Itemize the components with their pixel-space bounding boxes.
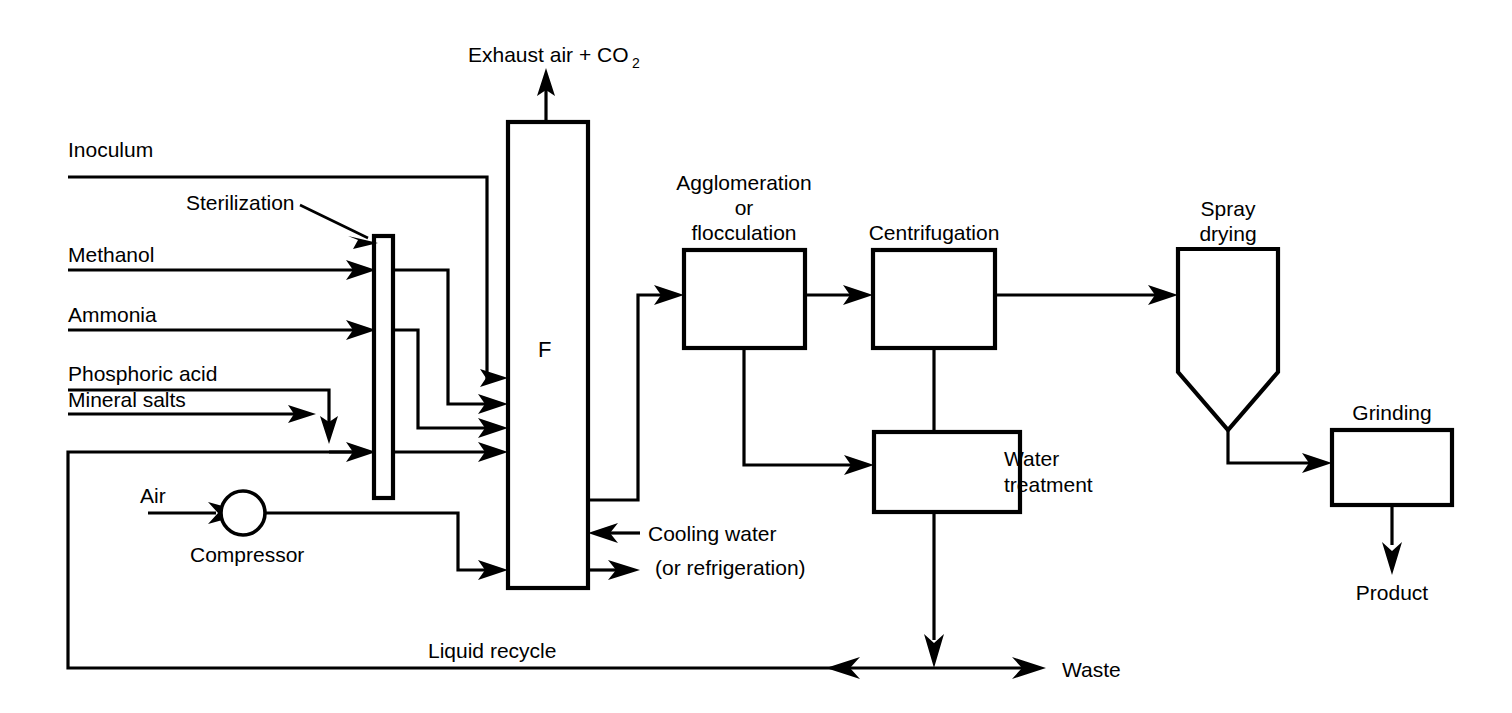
label-fermenter: F — [538, 337, 551, 362]
stream-cooling-water-in — [588, 523, 640, 543]
label-water-treatment-line2: treatment — [1004, 473, 1093, 496]
label-mineral-salts: Mineral salts — [68, 388, 186, 411]
label-ammonia: Ammonia — [68, 303, 157, 326]
process-flow-diagram: Exhaust air + CO 2 Inoculum Sterilizatio… — [0, 0, 1512, 713]
label-cooling-water-line1: Cooling water — [648, 522, 776, 545]
stream-exhaust — [537, 68, 555, 122]
sterilizer-vessel — [374, 236, 393, 498]
water-treatment-box — [874, 432, 1020, 512]
flow-diagram-svg: Exhaust air + CO 2 Inoculum Sterilizatio… — [0, 0, 1512, 713]
stream-agglom-to-water — [744, 348, 874, 475]
stream-waste — [934, 657, 1046, 679]
agglomeration-box — [684, 250, 805, 348]
label-agglomeration-line3: flocculation — [691, 221, 796, 244]
label-sterilization: Sterilization — [186, 191, 295, 214]
stream-cooling-water-out — [588, 560, 640, 580]
label-waste: Waste — [1062, 658, 1121, 681]
label-exhaust: Exhaust air + CO — [468, 43, 628, 66]
centrifugation-box — [873, 250, 995, 348]
label-methanol: Methanol — [68, 243, 154, 266]
stream-broth — [588, 285, 684, 500]
label-water-treatment-line1: Water — [1004, 447, 1059, 470]
arrowhead-inoculum — [480, 369, 508, 387]
sterilization-pointer — [300, 205, 378, 249]
stream-dryer-to-grinding — [1228, 430, 1332, 473]
label-exhaust-subscript: 2 — [632, 55, 640, 71]
label-spray-drying-line2: drying — [1199, 222, 1256, 245]
spray-dryer-vessel — [1178, 249, 1278, 430]
label-cooling-water-line2: (or refrigeration) — [655, 556, 806, 579]
stream-product — [1382, 505, 1402, 575]
label-grinding: Grinding — [1352, 401, 1431, 424]
label-air: Air — [140, 484, 166, 507]
compressor-symbol — [221, 491, 265, 535]
grinding-box — [1332, 430, 1452, 505]
label-agglomeration-line2: or — [735, 196, 754, 219]
stream-centrifuge-to-dryer — [995, 285, 1178, 305]
stream-air — [148, 491, 508, 580]
label-spray-drying-line1: Spray — [1201, 197, 1256, 220]
label-compressor: Compressor — [190, 543, 304, 566]
arrowhead-product — [1382, 542, 1402, 575]
label-phosphoric-acid: Phosphoric acid — [68, 362, 217, 385]
stream-agglom-to-centrifuge — [805, 285, 873, 305]
stream-water-to-waste — [924, 512, 944, 668]
label-centrifugation: Centrifugation — [869, 221, 1000, 244]
label-product: Product — [1356, 581, 1429, 604]
label-agglomeration-line1: Agglomeration — [676, 171, 811, 194]
label-inoculum: Inoculum — [68, 138, 153, 161]
label-liquid-recycle: Liquid recycle — [428, 639, 556, 662]
